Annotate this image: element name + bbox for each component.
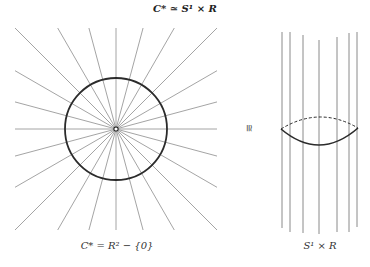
radial-ray	[117, 132, 143, 230]
left-caption: C* = R² − {0}	[62, 240, 172, 251]
cylinder-lines	[282, 32, 357, 234]
radial-ray	[117, 28, 143, 126]
radial-ray	[119, 130, 217, 156]
radial-ray	[15, 102, 113, 128]
radial-ray	[119, 102, 217, 128]
radial-ray	[118, 28, 217, 127]
diagram-canvas	[0, 0, 370, 267]
right-caption: S¹ × R	[290, 240, 350, 251]
radial-ray	[89, 132, 115, 230]
radial-ray	[15, 28, 114, 127]
radial-ray	[89, 28, 115, 126]
radial-ray	[15, 130, 113, 156]
radial-ray	[118, 131, 217, 230]
punctured-origin-icon	[114, 127, 118, 131]
radial-ray	[15, 131, 114, 230]
isomorphism-symbol: ≅	[244, 124, 255, 132]
